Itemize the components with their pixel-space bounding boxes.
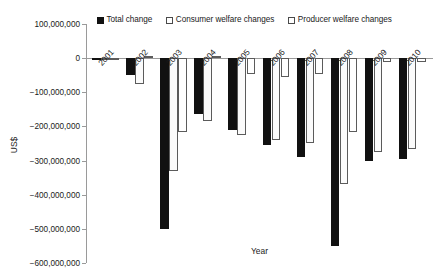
bar-2009-series-2 — [374, 58, 383, 152]
bar-2005-series-2 — [237, 58, 246, 135]
legend-label-total-change: Total change — [107, 16, 153, 24]
y-axis-tick — [82, 263, 86, 264]
bar-2009-series-1 — [365, 58, 374, 160]
bar-2007-series-3 — [315, 58, 324, 73]
bar-2004-series-1 — [194, 58, 203, 114]
y-axis-tick-label: 100,000,000 — [34, 20, 80, 29]
open-square-marker-icon — [166, 17, 173, 24]
open-square-marker-icon — [288, 17, 295, 24]
bar-2005-series-3 — [247, 58, 256, 73]
bar-2007-series-2 — [306, 58, 315, 143]
y-axis-tick-label: −300,000,000 — [30, 156, 80, 165]
plot-area: 100,000,0000−100,000,000−200,000,000−300… — [86, 24, 433, 263]
y-axis-title: US$ — [9, 122, 19, 168]
y-axis-tick-label: −600,000,000 — [30, 259, 80, 268]
legend-label-producer-welfare-changes: Producer welfare changes — [298, 16, 392, 24]
legend-item-consumer-welfare-changes: Consumer welfare changes — [166, 16, 274, 24]
bar-2010-series-2 — [408, 58, 417, 148]
y-axis-tick-label: 0 — [75, 54, 80, 63]
bar-2006-series-1 — [263, 58, 272, 145]
y-axis-tick-label: −200,000,000 — [30, 122, 80, 131]
bar-2006-series-2 — [272, 58, 281, 140]
bar-2003-series-2 — [169, 58, 178, 171]
legend-label-consumer-welfare-changes: Consumer welfare changes — [176, 16, 274, 24]
bar-2010-series-1 — [399, 58, 408, 159]
bar-2008-series-3 — [349, 58, 358, 131]
x-axis-title: Year — [86, 246, 433, 256]
legend-item-producer-welfare-changes: Producer welfare changes — [288, 16, 391, 24]
bar-2006-series-3 — [281, 58, 290, 77]
bar-2008-series-2 — [340, 58, 349, 184]
bar-2003-series-1 — [160, 58, 169, 229]
bar-2005-series-1 — [228, 58, 237, 130]
y-axis-tick-label: −400,000,000 — [30, 190, 80, 199]
legend-item-total-change: Total change — [97, 16, 152, 24]
filled-square-marker-icon — [97, 17, 104, 24]
bar-2008-series-1 — [331, 58, 340, 246]
bar-2003-series-3 — [178, 58, 187, 131]
bar-2007-series-1 — [297, 58, 306, 157]
y-axis-tick-label: −500,000,000 — [30, 224, 80, 233]
y-axis-tick-label: −100,000,000 — [30, 88, 80, 97]
chart-legend: Total change Consumer welfare changes Pr… — [97, 16, 392, 24]
